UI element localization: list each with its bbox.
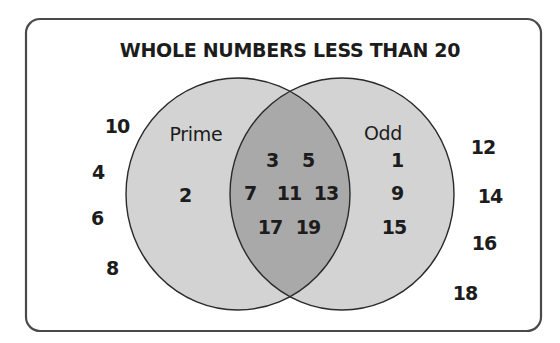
venn-diagram-canvas: WHOLE NUMBERS LESS THAN 20 Prime Odd 2 3… [0, 0, 560, 343]
number-13: 13 [314, 182, 338, 204]
number-19: 19 [296, 216, 320, 238]
number-6: 6 [91, 207, 104, 229]
odd-set-label: Odd [364, 122, 402, 144]
number-9: 9 [391, 182, 403, 204]
number-17: 17 [258, 216, 282, 238]
prime-set-label: Prime [170, 123, 223, 145]
number-3: 3 [266, 149, 278, 171]
prime-only-region: 2 [179, 184, 191, 206]
number-7: 7 [244, 182, 256, 204]
number-5: 5 [302, 149, 314, 171]
number-1: 1 [391, 149, 403, 171]
number-10: 10 [105, 115, 130, 137]
number-2: 2 [179, 184, 191, 206]
venn-diagram-figure: WHOLE NUMBERS LESS THAN 20 Prime Odd 2 3… [0, 0, 560, 343]
number-8: 8 [106, 257, 119, 279]
number-4: 4 [92, 161, 105, 183]
diagram-title: WHOLE NUMBERS LESS THAN 20 [120, 39, 460, 61]
number-15: 15 [382, 216, 406, 238]
number-18: 18 [453, 282, 478, 304]
number-14: 14 [478, 185, 503, 207]
number-16: 16 [472, 232, 497, 254]
number-11: 11 [277, 182, 301, 204]
number-12: 12 [471, 136, 495, 158]
